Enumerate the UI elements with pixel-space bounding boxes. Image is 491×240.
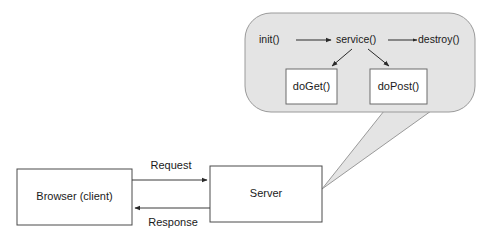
doget-label: doGet(): [293, 80, 330, 92]
callout-tail: [322, 111, 431, 189]
response-label: Response: [148, 216, 198, 228]
browser-label: Browser (client): [36, 190, 112, 202]
lifecycle-bubble: [245, 13, 475, 112]
lifecycle-init-label: init(): [259, 33, 279, 45]
server-label: Server: [250, 187, 283, 199]
lifecycle-service-label: service(): [336, 33, 376, 45]
dopost-label: doPost(): [378, 80, 420, 92]
diagram-canvas: init() service() destroy() doGet() doPos…: [0, 0, 491, 240]
lifecycle-destroy-label: destroy(): [418, 33, 459, 45]
servlet-diagram: init() service() destroy() doGet() doPos…: [0, 0, 491, 240]
request-label: Request: [151, 159, 192, 171]
